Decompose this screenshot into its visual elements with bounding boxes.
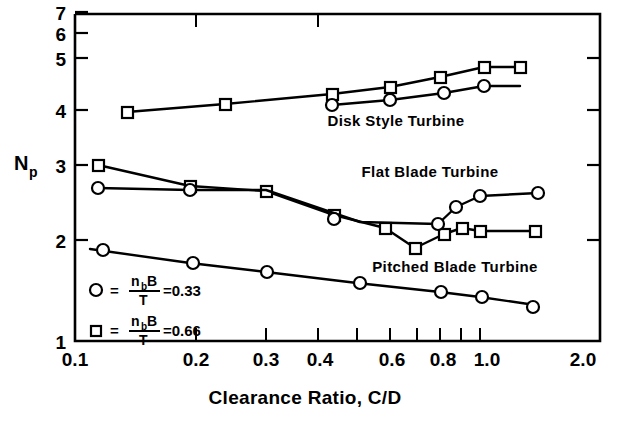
data-point	[479, 62, 490, 73]
data-point	[435, 286, 447, 298]
y-tick-label-3: 3	[55, 156, 66, 177]
legend-value-0: =0.33	[163, 282, 201, 299]
data-point	[457, 223, 468, 234]
data-point	[435, 72, 446, 83]
y-tick-label-5: 5	[55, 49, 66, 70]
series-annotation-disk: Disk Style Turbine	[328, 112, 465, 129]
data-point	[97, 244, 109, 256]
x-tick-label-0.2: 0.2	[183, 349, 209, 370]
series-line-flat-circle	[98, 188, 538, 224]
legend-numerator-tail-0: B	[147, 273, 157, 289]
square-marker-icon	[91, 326, 101, 336]
legend-entry-1: = n b B T =0.66	[91, 313, 201, 348]
data-point	[384, 94, 396, 106]
y-tick-label-4: 4	[55, 101, 66, 122]
y-tick-label-2: 2	[55, 231, 66, 252]
y-axis-ticks-left	[75, 12, 88, 240]
data-point	[380, 223, 391, 234]
legend-entry-0: = n b B T =0.33	[90, 273, 201, 308]
x-tick-label-0.3: 0.3	[253, 349, 279, 370]
legend-numerator-tail-1: B	[147, 313, 157, 329]
data-point	[438, 87, 450, 99]
data-point	[439, 229, 450, 240]
data-point	[354, 277, 366, 289]
x-axis-title: Clearance Ratio, C/D	[209, 387, 402, 408]
data-point	[328, 213, 340, 225]
legend-numerator-main-1: n	[131, 313, 140, 329]
chart-figure: 7 6 5 4 3 2 1 0.1 0.2 0.3 0.4 0.6 0.8 1.…	[0, 0, 620, 447]
series-line-disk-circle	[332, 86, 520, 105]
data-point	[478, 80, 490, 92]
x-tick-label-1.0: 1.0	[474, 349, 500, 370]
x-tick-label-0.8: 0.8	[430, 349, 456, 370]
y-tick-labels: 7 6 5 4 3 2 1	[55, 3, 66, 353]
data-point	[527, 301, 539, 313]
data-point	[261, 266, 273, 278]
y-tick-label-6: 6	[55, 24, 66, 45]
legend-equals-0: =	[110, 282, 119, 299]
data-point	[220, 99, 231, 110]
data-point	[326, 99, 338, 111]
data-point	[92, 182, 104, 194]
data-point	[187, 257, 199, 269]
data-point	[93, 160, 104, 171]
series-disk-circle	[326, 80, 520, 111]
data-point	[476, 291, 488, 303]
data-point	[385, 82, 396, 93]
data-point	[474, 190, 486, 202]
legend-numerator-main-0: n	[131, 273, 140, 289]
legend-denominator-0: T	[139, 292, 148, 308]
series-flat-circle	[92, 182, 544, 230]
series-annotation-flat: Flat Blade Turbine	[362, 163, 499, 180]
data-point	[450, 201, 462, 213]
chart-svg: 7 6 5 4 3 2 1 0.1 0.2 0.3 0.4 0.6 0.8 1.…	[0, 0, 620, 447]
circle-marker-icon	[90, 284, 102, 296]
data-point	[184, 184, 196, 196]
data-point	[530, 226, 541, 237]
y-axis-title-subscript: p	[29, 164, 38, 180]
x-tick-label-0.6: 0.6	[379, 349, 405, 370]
x-tick-label-0.1: 0.1	[62, 349, 89, 370]
data-point	[515, 62, 526, 73]
y-tick-label-7: 7	[55, 3, 66, 24]
legend-denominator-1: T	[139, 332, 148, 348]
series-pitched-circle	[90, 244, 539, 313]
y-axis-title-base: N	[14, 152, 28, 174]
y-axis-ticks-right	[587, 58, 600, 240]
data-point	[122, 107, 133, 118]
data-point	[432, 218, 444, 230]
y-axis-title: N p	[14, 152, 38, 180]
series-annotation-pitched: Pitched Blade Turbine	[372, 258, 538, 275]
legend-equals-1: =	[110, 322, 119, 339]
legend-value-1: =0.66	[163, 322, 201, 339]
data-point	[532, 187, 544, 199]
x-axis-ticks-bottom	[196, 328, 480, 341]
x-tick-label-0.4: 0.4	[307, 349, 334, 370]
legend: = n b B T =0.33 = n b B T =0.66	[90, 273, 201, 348]
x-tick-labels: 0.1 0.2 0.3 0.4 0.6 0.8 1.0 2.0	[62, 349, 596, 370]
x-tick-label-2.0: 2.0	[570, 349, 596, 370]
x-axis-ticks-top	[196, 14, 318, 27]
data-point	[410, 243, 421, 254]
data-point	[475, 226, 486, 237]
